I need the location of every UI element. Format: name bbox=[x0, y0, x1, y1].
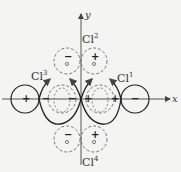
sign-far-left: + bbox=[22, 93, 30, 104]
svg-text:Cl4: Cl4 bbox=[82, 155, 99, 169]
svg-text:Cl1: Cl1 bbox=[117, 71, 133, 85]
label-cl1: Cl1 bbox=[117, 71, 133, 85]
sign-top-left: − bbox=[64, 51, 72, 62]
sign-bottom-left: − bbox=[64, 129, 72, 140]
sign-center-left-inner: − bbox=[68, 93, 76, 104]
dashed-inner-right bbox=[92, 88, 108, 112]
sign-top-right: + bbox=[91, 51, 99, 62]
y-axis-label: y bbox=[84, 9, 91, 20]
sign-center-left-outer: − bbox=[42, 93, 50, 104]
sign-bottom-right: + bbox=[91, 129, 99, 140]
label-cl3: Cl3 bbox=[31, 69, 47, 83]
label-cl2: Cl2 bbox=[82, 32, 98, 46]
sign-far-right: − bbox=[131, 93, 139, 104]
sign-center-right-inner: + bbox=[84, 93, 92, 104]
svg-text:Cl3: Cl3 bbox=[31, 69, 47, 83]
svg-text:Cl2: Cl2 bbox=[82, 32, 98, 46]
sign-center-right-outer: + bbox=[111, 93, 119, 104]
orbital-diagram: x y + − − + + − − + − + Cl2 Cl3 Cl1 Cl4 bbox=[0, 0, 181, 172]
label-cl4: Cl4 bbox=[82, 155, 99, 169]
x-axis-label: x bbox=[172, 93, 178, 104]
orbital-svg: x y + − − + + − − + − + Cl2 Cl3 Cl1 Cl4 bbox=[0, 0, 181, 172]
